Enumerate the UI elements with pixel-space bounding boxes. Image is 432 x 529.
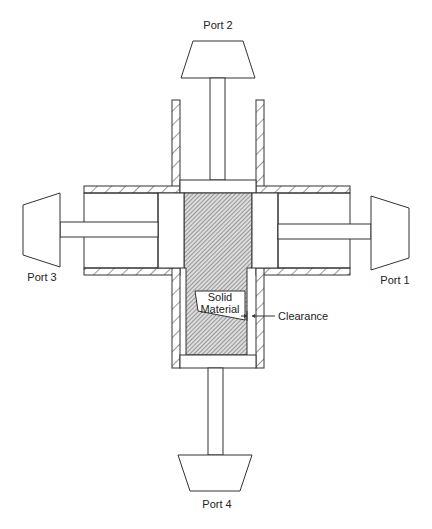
clearance-arrowhead-right-icon <box>252 314 255 318</box>
port-diagram: Port 2 Port 3 Port 1 <box>0 0 432 529</box>
top-piston-rod <box>210 78 225 180</box>
port-3-trapezoid-icon <box>23 193 60 267</box>
port-2: Port 2 <box>181 19 255 78</box>
left-top-wall <box>84 186 180 193</box>
right-bottom-wall <box>256 268 350 275</box>
port-1-trapezoid-icon <box>371 196 409 270</box>
right-piston-rod <box>278 224 371 239</box>
right-top-wall <box>256 186 350 193</box>
port-1-label: Port 1 <box>380 274 409 286</box>
port-3-label: Port 3 <box>27 271 56 283</box>
clearance-callout: Clearance <box>241 310 328 322</box>
port-2-label: Port 2 <box>203 19 232 31</box>
port-4-trapezoid-icon <box>178 455 252 491</box>
port-2-trapezoid-icon <box>181 41 255 78</box>
bottom-piston-rod <box>208 368 223 455</box>
bottom-piston-head <box>180 355 256 368</box>
bottom-left-wall <box>172 268 180 368</box>
port-4: Port 4 <box>178 455 252 510</box>
top-left-wall <box>172 100 180 192</box>
solid-material-label-line2: Material <box>200 303 239 315</box>
top-right-wall <box>256 100 264 192</box>
solid-material-region <box>184 193 252 355</box>
right-piston-head <box>252 193 278 268</box>
left-piston-head <box>158 193 184 268</box>
left-piston-rod <box>60 222 158 237</box>
left-bottom-wall <box>84 268 180 275</box>
solid-material-label-line1: Solid <box>208 291 232 303</box>
clearance-label: Clearance <box>278 310 328 322</box>
port-4-label: Port 4 <box>202 498 231 510</box>
top-piston-head <box>180 180 256 193</box>
bottom-right-wall <box>256 268 264 368</box>
